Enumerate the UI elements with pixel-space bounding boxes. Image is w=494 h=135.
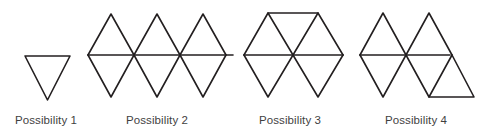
- net-group-possibility-2: [88, 14, 233, 97]
- caption-possibility-1: Possibility 1: [15, 112, 77, 128]
- net-edge-path: [360, 55, 452, 97]
- net-edge-path: [244, 13, 343, 55]
- caption-possibility-3: Possibility 3: [259, 112, 321, 128]
- net-edge-path: [244, 55, 343, 97]
- net-edge-path: [360, 13, 452, 55]
- caption-possibility-2: Possibility 2: [126, 112, 188, 128]
- caption-row: Possibility 1 Possibility 2 Possibility …: [0, 112, 494, 135]
- net-edge-path: [88, 55, 226, 97]
- net-group-possibility-4: [360, 13, 474, 97]
- net-edge-path: [25, 56, 70, 100]
- net-group-possibility-1: [25, 56, 70, 100]
- net-edge-path: [88, 14, 226, 55]
- net-edge-path: [429, 55, 474, 97]
- net-group-possibility-3: [244, 13, 343, 97]
- triangle-net-figure: Possibility 1 Possibility 2 Possibility …: [0, 0, 494, 135]
- caption-possibility-4: Possibility 4: [385, 112, 447, 128]
